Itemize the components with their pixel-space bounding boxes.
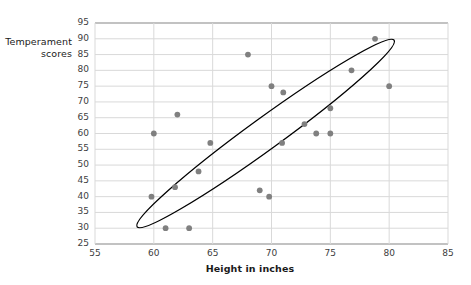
data-point: [349, 67, 355, 73]
y-tick-label: 75: [67, 80, 89, 90]
y-tick-label: 90: [67, 33, 89, 43]
x-tick-label: 85: [433, 248, 463, 258]
x-tick-label: 75: [315, 248, 345, 258]
data-point: [269, 83, 275, 89]
data-point: [386, 83, 392, 89]
x-tick-label: 80: [374, 248, 404, 258]
x-tick-label: 70: [257, 248, 287, 258]
data-point: [302, 121, 308, 127]
y-tick-label: 65: [67, 112, 89, 122]
y-tick-label: 45: [67, 175, 89, 185]
data-point: [372, 36, 378, 42]
data-point: [266, 194, 272, 200]
y-tick-label: 25: [67, 238, 89, 248]
y-tick-label: 50: [67, 159, 89, 169]
data-point: [245, 52, 251, 58]
scatter-chart: Temperament scores Height in inches 2530…: [0, 0, 471, 285]
y-tick-label: 95: [67, 17, 89, 27]
data-point: [172, 184, 178, 190]
x-tick-label: 65: [198, 248, 228, 258]
data-point: [149, 194, 155, 200]
data-point: [207, 140, 213, 146]
y-tick-label: 30: [67, 222, 89, 232]
data-point: [174, 112, 180, 118]
data-point: [163, 225, 169, 231]
x-tick-label: 55: [80, 248, 110, 258]
y-tick-label: 55: [67, 143, 89, 153]
y-tick-label: 60: [67, 128, 89, 138]
data-point: [196, 168, 202, 174]
y-tick-label: 35: [67, 206, 89, 216]
data-point: [151, 131, 157, 137]
y-tick-label: 40: [67, 191, 89, 201]
data-point: [279, 140, 285, 146]
data-point: [257, 187, 263, 193]
y-tick-label: 85: [67, 49, 89, 59]
data-point: [313, 131, 319, 137]
data-point: [327, 131, 333, 137]
data-point: [327, 105, 333, 111]
y-tick-label: 70: [67, 96, 89, 106]
y-tick-label: 80: [67, 64, 89, 74]
data-point: [280, 90, 286, 96]
data-point: [186, 225, 192, 231]
x-tick-label: 60: [139, 248, 169, 258]
